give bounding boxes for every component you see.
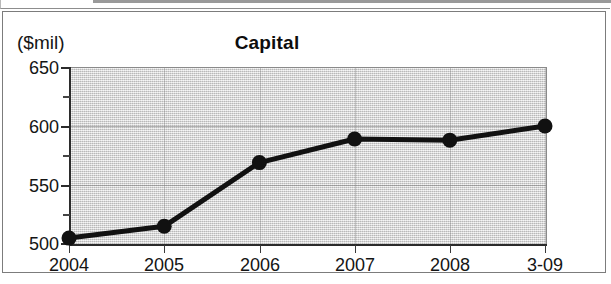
data-point-3-09 [538,119,553,134]
capital-series-line [69,126,545,238]
capital-line-chart: ($mil) Capital 650 600 [3,12,607,274]
data-point-2007 [347,131,362,146]
data-point-2008 [442,133,457,148]
scan-top-strip-rule [93,0,611,3]
figure-frame: ($mil) Capital 650 600 [2,11,606,273]
data-point-2005 [157,219,172,234]
series-layer [3,12,607,274]
scan-top-strip [0,0,610,9]
data-point-2004 [62,231,77,246]
data-point-2006 [252,155,267,170]
